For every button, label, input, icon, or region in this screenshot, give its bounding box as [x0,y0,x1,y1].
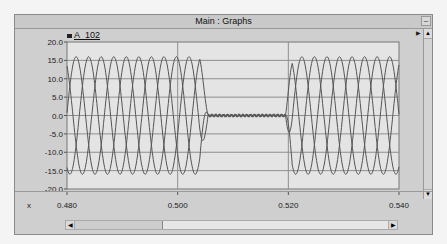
y-axis-ticks: 20.015.010.05.00.0-5.0-10.0-15.0-20.0 [45,38,67,194]
svg-text:-20.0: -20.0 [45,185,64,194]
svg-text:-10.0: -10.0 [45,148,64,157]
svg-text:-5.0: -5.0 [49,130,63,139]
svg-text:5.0: 5.0 [52,93,64,102]
plot-area: 20.015.010.05.00.0-5.0-10.0-15.0-20.0 [15,15,434,236]
scroll-thumb[interactable] [75,221,163,229]
scroll-right-button[interactable]: ▶ [388,221,397,229]
svg-text:15.0: 15.0 [47,56,63,65]
vertical-scrollbar[interactable]: ▲ ▼ [423,29,432,199]
x-tick-label: 0.520 [278,201,298,210]
svg-text:10.0: 10.0 [47,75,63,84]
svg-text:-15.0: -15.0 [45,167,64,176]
graph-window: Main : Graphs – A_102 ▶ 20.015.010.05.00… [14,14,433,235]
horizontal-scrollbar[interactable]: ◀ ▶ [65,220,398,230]
x-axis-divider [15,191,432,192]
x-tick-label: 0.540 [389,201,409,210]
svg-text:20.0: 20.0 [47,38,63,47]
scroll-up-button[interactable]: ▲ [424,29,432,39]
x-tick-label: 0.500 [168,201,188,210]
scroll-left-button[interactable]: ◀ [66,221,75,229]
svg-text:0.0: 0.0 [52,112,64,121]
x-tick-label: 0.480 [57,201,77,210]
x-axis-name: x [27,201,31,210]
